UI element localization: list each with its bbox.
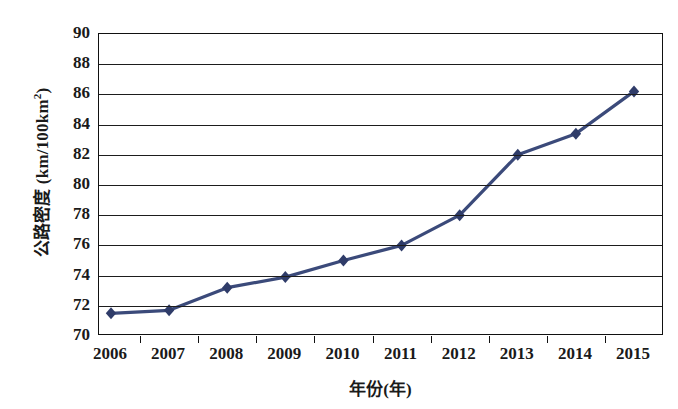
y-axis-tick-label: 90	[50, 24, 90, 41]
y-axis-tick-label: 72	[50, 296, 90, 313]
data-point-marker	[338, 255, 348, 267]
x-axis-tick-labels: 2006200720082009201020112012201320142015	[98, 345, 663, 369]
gridline	[99, 245, 662, 246]
y-axis-tick-label: 88	[50, 54, 90, 71]
x-axis-tick	[198, 336, 199, 343]
x-axis-tick	[373, 336, 374, 343]
y-axis-title-tail: )	[33, 88, 52, 94]
gridline	[99, 64, 662, 65]
y-axis-tick-label: 82	[50, 145, 90, 162]
gridline	[99, 276, 662, 277]
x-axis-tick	[431, 336, 432, 343]
y-axis-title: 公路密度 (km/100km2)	[28, 13, 53, 333]
x-axis-tick	[605, 336, 606, 343]
gridline	[99, 306, 662, 307]
x-axis-tick	[489, 336, 490, 343]
x-axis-tick	[256, 336, 257, 343]
data-point-marker	[106, 307, 116, 319]
gridline	[99, 94, 662, 95]
y-axis-tick-label: 80	[50, 175, 90, 192]
gridline	[99, 125, 662, 126]
x-axis-tick	[314, 336, 315, 343]
y-axis-tick-label: 84	[50, 115, 90, 132]
y-axis-tick-label: 86	[50, 84, 90, 101]
y-axis-title-superscript: 2	[31, 94, 43, 100]
x-axis-tick	[140, 336, 141, 343]
y-axis-tick-label: 74	[50, 266, 90, 283]
y-axis-tick-label: 76	[50, 235, 90, 252]
line-chart: 公路密度 (km/100km2) 7072747678808284868890 …	[0, 0, 678, 409]
x-axis-tick	[547, 336, 548, 343]
data-point-marker	[222, 282, 232, 294]
gridline	[99, 155, 662, 156]
y-axis-tick-label: 70	[50, 326, 90, 343]
x-axis-tick-label: 2015	[598, 345, 668, 362]
gridline	[99, 215, 662, 216]
plot-area	[98, 33, 663, 335]
y-axis-tick-label: 78	[50, 205, 90, 222]
gridline	[99, 185, 662, 186]
x-axis-title: 年份(年)	[98, 375, 663, 400]
data-point-marker	[280, 271, 290, 283]
y-axis-title-main: 公路密度 (km/100km	[33, 99, 52, 257]
